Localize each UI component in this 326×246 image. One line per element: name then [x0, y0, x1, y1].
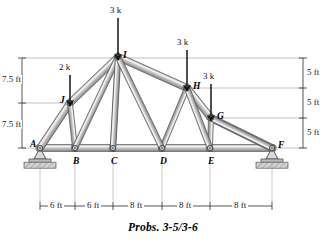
member-HD: [159, 85, 191, 152]
horizontal-dimension-label-0: 6 ft: [48, 201, 64, 210]
horizontal-dimension-label-4: 8 ft: [232, 201, 248, 210]
joint-pin-center-G: [210, 117, 212, 119]
left-dimension-label-1: 7.5 ft: [1, 120, 22, 129]
joint-pin-center-B: [74, 147, 76, 149]
joint-pin-center-F: [271, 147, 273, 149]
joint-label-D: D: [160, 157, 167, 167]
joint-label-F: F: [278, 141, 284, 151]
horizontal-dimension-label-2: 8 ft: [128, 201, 144, 210]
joint-label-G: G: [217, 112, 224, 122]
joint-pin-center-J: [69, 102, 71, 104]
joint-pin-center-C: [112, 147, 114, 149]
joint-label-E: E: [208, 157, 214, 167]
left-dimension-label-0: 7.5 ft: [1, 75, 22, 84]
joint-pin-center-A: [39, 147, 41, 149]
member-DE: [158, 145, 213, 152]
joint-pin-center-D: [161, 147, 163, 149]
horizontal-dimension-label-1: 6 ft: [85, 201, 101, 210]
joint-label-A: A: [30, 140, 36, 150]
joint-label-B: B: [73, 157, 79, 167]
right-dimension-label-0: 5 ft: [306, 68, 320, 77]
load-label-J: 2 k: [59, 63, 70, 72]
truss-figure: ABCDEFGHIJ3 k2 k3 k3 k6 ft6 ft8 ft8 ft8 …: [0, 0, 326, 246]
member-CD: [109, 145, 165, 152]
joint-pin-center-E: [209, 147, 211, 149]
right-dimension-label-2: 5 ft: [306, 128, 320, 137]
load-label-H: 3 k: [177, 38, 188, 47]
joint-label-I: I: [123, 51, 127, 61]
horizontal-dimension-label-3: 8 ft: [177, 201, 193, 210]
joint-pin-center-I: [117, 56, 119, 58]
joint-label-C: C: [111, 157, 117, 167]
figure-caption: Probs. 3-5/3-6: [0, 222, 326, 234]
joint-pin-center-H: [186, 87, 188, 89]
load-label-I: 3 k: [110, 6, 121, 15]
right-dimension-label-1: 5 ft: [306, 98, 320, 107]
joint-label-H: H: [193, 82, 200, 92]
joint-label-J: J: [60, 96, 65, 106]
load-label-G: 3 k: [203, 72, 214, 81]
